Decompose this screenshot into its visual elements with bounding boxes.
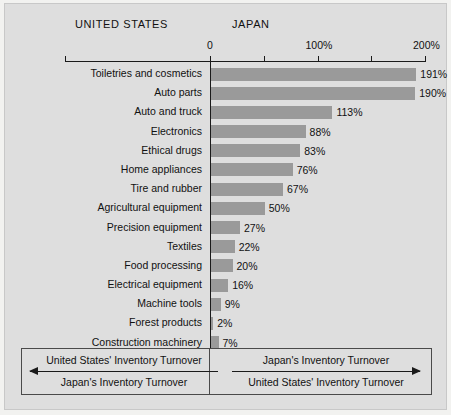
x-tick-label-100: 100% bbox=[306, 39, 333, 51]
value-label: 113% bbox=[336, 106, 362, 118]
value-label: 50% bbox=[269, 202, 290, 214]
value-label: 190% bbox=[419, 87, 446, 99]
bar-row: Precision equipment27% bbox=[5, 220, 448, 239]
ratio-left-denominator: Japan's Inventory Turnover bbox=[30, 372, 218, 393]
value-label: 7% bbox=[223, 337, 238, 349]
category-label: Toiletries and cosmetics bbox=[91, 67, 202, 79]
category-label: Agricultural equipment bbox=[98, 201, 202, 213]
ratio-right: Japan's Inventory Turnover United States… bbox=[232, 350, 420, 393]
value-label: 88% bbox=[310, 126, 331, 138]
bar bbox=[211, 68, 416, 81]
bar-rows: Toiletries and cosmetics191%Auto parts19… bbox=[5, 66, 448, 354]
x-axis-left-cap bbox=[65, 56, 66, 62]
bar bbox=[211, 163, 293, 176]
ratio-right-numerator: Japan's Inventory Turnover bbox=[232, 350, 420, 371]
value-label: 191% bbox=[420, 68, 447, 80]
x-tick-150 bbox=[371, 56, 372, 62]
bar bbox=[211, 183, 283, 196]
bar-row: Electrical equipment16% bbox=[5, 277, 448, 296]
bar-row: Food processing20% bbox=[5, 258, 448, 277]
category-label: Food processing bbox=[124, 259, 202, 271]
bar bbox=[211, 125, 306, 138]
x-tick-50 bbox=[264, 56, 265, 62]
ratio-right-rule bbox=[232, 371, 420, 372]
x-tick-200 bbox=[425, 56, 426, 62]
bar bbox=[211, 106, 332, 119]
bar bbox=[211, 221, 240, 234]
category-label: Auto and truck bbox=[134, 105, 202, 117]
bar-row: Auto parts190% bbox=[5, 85, 448, 104]
value-label: 83% bbox=[304, 145, 325, 157]
value-label: 16% bbox=[232, 279, 253, 291]
bar-row: Machine tools9% bbox=[5, 296, 448, 315]
bar bbox=[211, 259, 233, 272]
x-tick-100 bbox=[318, 56, 319, 62]
bar bbox=[211, 87, 415, 100]
value-label: 76% bbox=[297, 164, 318, 176]
value-label: 9% bbox=[225, 298, 240, 310]
category-label: Ethical drugs bbox=[141, 144, 202, 156]
arrow-right-icon bbox=[412, 367, 421, 375]
ratio-left: United States' Inventory Turnover Japan'… bbox=[30, 350, 218, 393]
category-label: Electrical equipment bbox=[107, 278, 202, 290]
footer-legend: United States' Inventory Turnover Japan'… bbox=[21, 348, 432, 395]
value-label: 27% bbox=[244, 222, 265, 234]
category-label: Precision equipment bbox=[107, 221, 202, 233]
value-label: 22% bbox=[239, 241, 260, 253]
category-label: Tire and rubber bbox=[131, 182, 202, 194]
value-label: 67% bbox=[287, 183, 308, 195]
value-label: 2% bbox=[217, 317, 232, 329]
bar-row: Tire and rubber67% bbox=[5, 181, 448, 200]
arrow-left-icon bbox=[29, 367, 38, 375]
category-label: Textiles bbox=[167, 240, 202, 252]
value-label: 20% bbox=[237, 260, 258, 272]
category-label: Forest products bbox=[129, 316, 202, 328]
category-label: Machine tools bbox=[137, 297, 202, 309]
category-label: Electronics bbox=[151, 125, 202, 137]
bar bbox=[211, 144, 300, 157]
bar-row: Textiles22% bbox=[5, 239, 448, 258]
bar-row: Home appliances76% bbox=[5, 162, 448, 181]
bar bbox=[211, 202, 265, 215]
bar bbox=[211, 240, 235, 253]
ratio-right-denominator: United States' Inventory Turnover bbox=[232, 372, 420, 393]
chart-figure: UNITED STATES JAPAN 0100%200% Toiletries… bbox=[4, 3, 447, 410]
ratio-left-rule bbox=[30, 371, 218, 372]
bar-row: Agricultural equipment50% bbox=[5, 200, 448, 219]
bar bbox=[211, 317, 213, 330]
bar-row: Toiletries and cosmetics191% bbox=[5, 66, 448, 85]
category-label: Home appliances bbox=[121, 163, 202, 175]
bar-row: Ethical drugs83% bbox=[5, 143, 448, 162]
ratio-left-numerator: United States' Inventory Turnover bbox=[30, 350, 218, 371]
bar bbox=[211, 279, 228, 292]
bar-row: Electronics88% bbox=[5, 124, 448, 143]
bar-row: Forest products2% bbox=[5, 315, 448, 334]
x-tick-label-200: 200% bbox=[413, 39, 440, 51]
bar bbox=[211, 298, 221, 311]
category-label: Construction machinery bbox=[92, 336, 202, 348]
category-label: Auto parts bbox=[154, 86, 202, 98]
bar-row: Auto and truck113% bbox=[5, 104, 448, 123]
x-tick-label-0: 0 bbox=[207, 39, 213, 51]
